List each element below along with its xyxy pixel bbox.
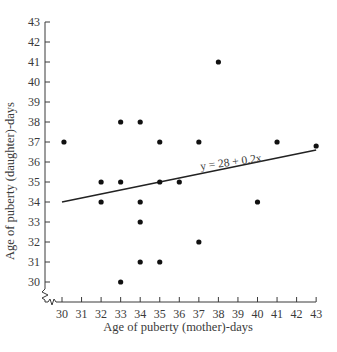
y-tick-label: 34: [28, 195, 40, 209]
data-point: [138, 259, 143, 264]
data-point: [99, 199, 104, 204]
x-tick-label: 35: [154, 307, 166, 321]
x-tick-label: 41: [271, 307, 283, 321]
x-tick-label: 36: [173, 307, 185, 321]
x-tick-label: 33: [115, 307, 127, 321]
data-point: [61, 139, 66, 144]
x-tick-label: 42: [291, 307, 303, 321]
data-point: [157, 259, 162, 264]
y-ticks: 3031323334353637383940414243: [28, 15, 50, 289]
data-point: [274, 139, 279, 144]
data-point: [118, 119, 123, 124]
scatter-chart: 3031323334353637383940414243 30313233343…: [0, 0, 337, 352]
x-tick-label: 30: [56, 307, 68, 321]
y-tick-label: 32: [28, 235, 40, 249]
y-tick-label: 43: [28, 15, 40, 29]
data-point: [118, 179, 123, 184]
x-tick-label: 39: [232, 307, 244, 321]
data-point: [99, 179, 104, 184]
x-axis-label: Age of puberty (mother)-days: [103, 320, 253, 334]
y-tick-label: 40: [28, 75, 40, 89]
x-tick-label: 31: [76, 307, 88, 321]
x-ticks: 3031323334353637383940414243: [56, 297, 322, 321]
y-tick-label: 31: [28, 255, 40, 269]
y-tick-label: 39: [28, 95, 40, 109]
data-point: [157, 179, 162, 184]
data-point: [314, 143, 319, 148]
data-point: [216, 59, 221, 64]
y-tick-label: 30: [28, 275, 40, 289]
y-axis-label: Age of puberty (daughter)-days: [3, 102, 17, 260]
data-point: [196, 239, 201, 244]
data-point: [138, 119, 143, 124]
x-tick-label: 40: [252, 307, 264, 321]
x-axis-break-icon: [45, 299, 56, 305]
x-tick-label: 43: [310, 307, 322, 321]
regression-line: [62, 150, 316, 202]
y-tick-label: 35: [28, 175, 40, 189]
data-point: [138, 219, 143, 224]
data-point: [157, 139, 162, 144]
y-tick-label: 33: [28, 215, 40, 229]
data-point: [196, 139, 201, 144]
data-point: [138, 199, 143, 204]
y-axis: 3031323334353637383940414243: [28, 15, 50, 302]
y-tick-label: 41: [28, 55, 40, 69]
y-axis-break-icon: [42, 289, 48, 302]
y-tick-label: 42: [28, 35, 40, 49]
x-axis: 3031323334353637383940414243: [45, 297, 322, 321]
x-tick-label: 34: [134, 307, 146, 321]
y-tick-label: 37: [28, 135, 40, 149]
data-point: [255, 199, 260, 204]
regression-equation-label: y = 28 + 0.2x: [199, 151, 262, 173]
x-tick-label: 38: [212, 307, 224, 321]
x-tick-label: 32: [95, 307, 107, 321]
data-point: [118, 279, 123, 284]
y-tick-label: 36: [28, 155, 40, 169]
data-point: [177, 179, 182, 184]
y-tick-label: 38: [28, 115, 40, 129]
data-points: [61, 59, 318, 284]
x-tick-label: 37: [193, 307, 205, 321]
